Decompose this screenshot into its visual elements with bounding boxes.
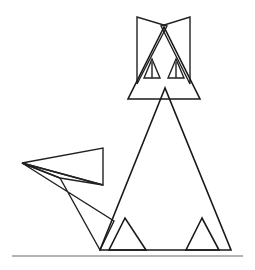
left-leg-triangle-shape [109,218,146,250]
cat-line-drawing [0,0,255,270]
tail-upper-spike-shape [22,148,103,185]
head-triangle-shape [128,27,200,99]
drawing-canvas [0,0,255,270]
right-leg-triangle-shape [186,218,219,250]
body-triangle-shape [100,88,231,250]
